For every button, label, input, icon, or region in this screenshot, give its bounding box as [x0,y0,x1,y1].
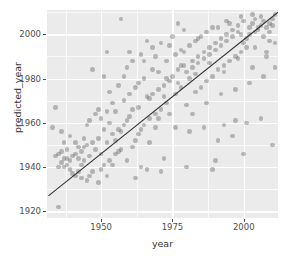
identity-reference-line [47,10,278,218]
y-tick-mark-1940 [43,167,46,168]
y-tick-mark-1980 [43,79,46,80]
y-tick-mark-2000 [43,34,46,35]
y-tick-mark-1960 [43,123,46,124]
y-tick-label-1940: 1940 [0,163,41,172]
x-tick-mark-1975 [172,219,173,222]
x-tick-mark-2000 [244,219,245,222]
y-tick-label-1920: 1920 [0,207,41,216]
x-axis-title: year [47,238,278,249]
plot-panel [47,10,278,218]
y-axis-title: predicted_year [12,43,23,153]
identity-line-segment [48,12,278,196]
y-tick-label-2000: 2000 [0,30,41,39]
x-tick-mark-1950 [101,219,102,222]
x-tick-label-2000: 2000 [224,223,264,232]
x-tick-label-1950: 1950 [81,223,121,232]
y-tick-mark-1920 [43,211,46,212]
x-tick-label-1975: 1975 [152,223,192,232]
scatter-chart: 19201940196019802000 predicted_year 1950… [0,0,289,261]
